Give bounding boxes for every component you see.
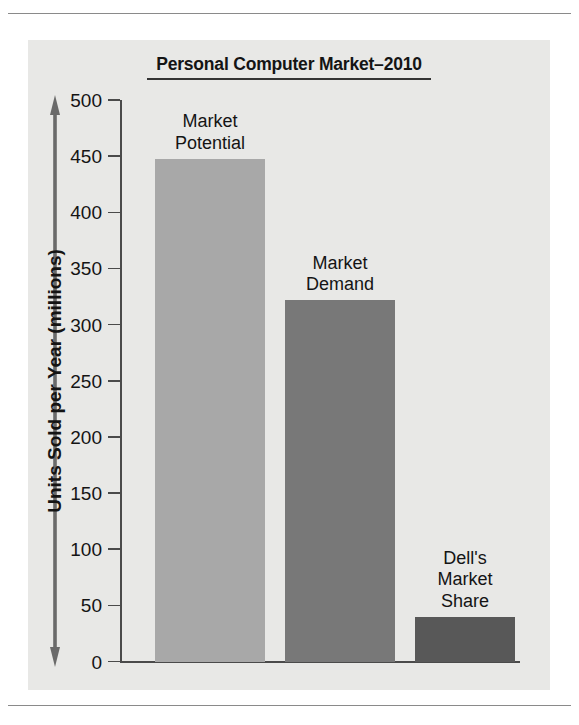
bar (415, 617, 515, 662)
y-tick-label: 400 (42, 203, 102, 222)
y-tick-mark (108, 492, 120, 494)
y-tick-mark (108, 436, 120, 438)
page-rule-top (8, 13, 571, 14)
y-tick-mark (108, 324, 120, 326)
y-tick-mark (108, 99, 120, 101)
y-tick-label: 50 (42, 596, 102, 615)
y-axis-line (120, 100, 122, 662)
y-tick-label: 150 (42, 484, 102, 503)
y-tick-label: 250 (42, 371, 102, 390)
y-tick-label: 500 (42, 91, 102, 110)
y-tick-mark (108, 380, 120, 382)
y-tick-mark (108, 548, 120, 550)
bar-label: Market Demand (267, 253, 413, 295)
bar (285, 300, 395, 662)
y-tick-label: 100 (42, 540, 102, 559)
y-tick-label: 450 (42, 147, 102, 166)
y-tick-mark (108, 605, 120, 607)
plot-area: 500450400350300250200150100500 Market Po… (28, 40, 550, 690)
y-tick-mark (108, 155, 120, 157)
y-tick-label: 200 (42, 427, 102, 446)
y-tick-label: 0 (42, 652, 102, 671)
bar-label: Market Potential (137, 111, 283, 153)
chart-panel: Personal Computer Market–2010 Units Sold… (28, 40, 550, 690)
y-tick-mark (108, 212, 120, 214)
y-tick-label: 350 (42, 259, 102, 278)
bar-label: Dell's Market Share (397, 548, 533, 612)
page-rule-bottom (8, 705, 571, 706)
y-tick-mark (108, 268, 120, 270)
bar (155, 159, 265, 662)
y-tick-mark (108, 661, 120, 663)
y-tick-label: 300 (42, 315, 102, 334)
